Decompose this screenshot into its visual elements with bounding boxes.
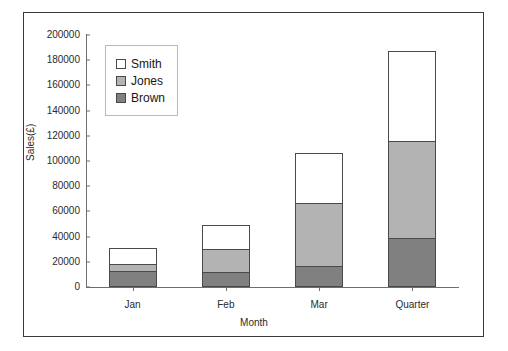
bar-slot [273,35,366,287]
x-axis-tick-label: Jan [86,300,179,310]
y-axis-tick-label: 180000 [47,55,86,65]
bar-segment[interactable] [295,153,343,202]
legend-item[interactable]: Smith [116,55,165,72]
bar-segment[interactable] [202,225,250,249]
x-axis-tick-mark [412,287,413,291]
legend-item-label: Brown [131,92,165,104]
y-axis-tick-label: 80000 [52,181,86,191]
bar-segment[interactable] [388,238,436,287]
chart-legend: SmithJonesBrown [105,45,178,116]
y-axis-tick-label: 160000 [47,80,86,90]
legend-item-label: Smith [131,58,162,70]
bar-slot [179,35,272,287]
bar-segment[interactable] [202,272,250,287]
y-axis-tick-label: 120000 [47,131,86,141]
legend-swatch-icon [116,93,126,103]
stacked-bar[interactable] [202,225,250,287]
bar-segment[interactable] [202,249,250,272]
legend-swatch-icon [116,59,126,69]
legend-item[interactable]: Jones [116,72,165,89]
y-axis-tick-label: 140000 [47,106,86,116]
bar-segment[interactable] [109,271,157,287]
x-axis-title: Month [0,318,508,328]
y-axis-tick-label: 200000 [47,30,86,40]
legend-item-label: Jones [131,75,163,87]
bar-segment[interactable] [295,203,343,266]
legend-item[interactable]: Brown [116,89,165,106]
y-axis-tick-label: 60000 [52,206,86,216]
stacked-bar[interactable] [388,51,436,287]
y-axis-tick-label: 100000 [47,156,86,166]
x-axis-category-labels: JanFebMarQuarter [86,287,459,317]
x-axis-tick-label: Quarter [366,300,459,310]
x-axis-category: Jan [86,287,179,317]
stacked-bar[interactable] [295,153,343,287]
y-axis-tick-label: 0 [74,282,86,292]
y-axis-tick-label: 40000 [52,232,86,242]
x-axis-category: Mar [273,287,366,317]
bar-slot [366,35,459,287]
stacked-bar[interactable] [109,248,157,287]
y-axis-tick-label: 20000 [52,257,86,267]
x-axis-tick-label: Feb [179,300,272,310]
x-axis-tick-mark [226,287,227,291]
x-axis-category: Quarter [366,287,459,317]
x-axis-tick-mark [133,287,134,291]
legend-swatch-icon [116,76,126,86]
bar-segment[interactable] [388,51,436,140]
bar-segment[interactable] [109,248,157,264]
y-axis-title: Sales(£) [26,124,36,161]
x-axis-tick-label: Mar [273,300,366,310]
bar-segment[interactable] [388,141,436,238]
x-axis-tick-mark [319,287,320,291]
x-axis-category: Feb [179,287,272,317]
bar-segment[interactable] [295,266,343,287]
